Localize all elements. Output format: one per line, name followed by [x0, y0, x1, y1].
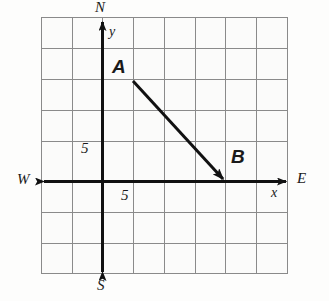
coordinate-plane-figure: N S W E y x 5 5 A B	[0, 0, 329, 301]
compass-label-south: S	[97, 278, 105, 293]
compass-label-north: N	[95, 0, 105, 15]
x-axis-tick-label-5: 5	[121, 188, 129, 203]
grid-and-vector-canvas	[0, 0, 329, 301]
point-label-a: A	[112, 57, 126, 76]
x-axis-label: x	[271, 186, 277, 200]
point-label-b: B	[231, 147, 245, 166]
compass-label-west: W	[17, 172, 30, 187]
y-axis-tick-label-5: 5	[81, 141, 89, 156]
y-axis-label: y	[109, 25, 115, 39]
compass-label-east: E	[297, 171, 306, 186]
